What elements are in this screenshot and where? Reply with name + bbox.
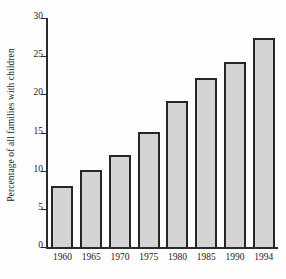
- x-tick-label: 1975: [134, 252, 163, 262]
- y-tick-label: 15: [34, 126, 44, 136]
- bar: [166, 101, 188, 247]
- x-tick-label: 1970: [106, 252, 135, 262]
- x-tick-label: 1990: [221, 252, 250, 262]
- bar: [51, 186, 73, 247]
- x-tick-label: 1960: [48, 252, 77, 262]
- y-tick-label: 5: [38, 202, 43, 212]
- bar: [195, 78, 217, 247]
- bar: [109, 155, 131, 247]
- y-axis-title: Percentage of all families with children: [0, 0, 22, 250]
- plot-area: 051015202530 196019651970197519801985199…: [46, 18, 278, 249]
- x-axis-line: [46, 247, 278, 249]
- y-tick-label: 0: [38, 240, 43, 250]
- bar-series: [48, 18, 278, 247]
- bar-chart-figure: Percentage of all families with children…: [0, 0, 286, 279]
- x-tick-label: 1994: [249, 252, 278, 262]
- y-axis-title-text: Percentage of all families with children: [6, 48, 16, 202]
- y-tick-label: 20: [34, 87, 44, 97]
- bar: [80, 170, 102, 247]
- x-tick-label: 1965: [77, 252, 106, 262]
- y-tick-label: 25: [34, 49, 44, 59]
- bar: [224, 62, 246, 247]
- y-tick-label: 10: [34, 164, 44, 174]
- y-tick-label: 30: [34, 11, 44, 21]
- bar: [138, 132, 160, 247]
- x-tick-label: 1985: [192, 252, 221, 262]
- bar: [253, 38, 275, 247]
- x-tick-label: 1980: [163, 252, 192, 262]
